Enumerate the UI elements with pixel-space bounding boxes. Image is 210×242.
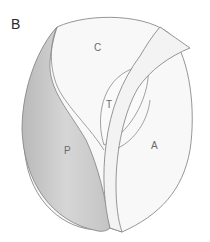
label-c: C <box>94 43 101 53</box>
label-p: P <box>64 146 71 156</box>
label-a: A <box>151 141 158 151</box>
anatomical-diagram <box>0 0 210 242</box>
label-t: T <box>106 100 112 110</box>
panel-label: B <box>11 16 20 32</box>
